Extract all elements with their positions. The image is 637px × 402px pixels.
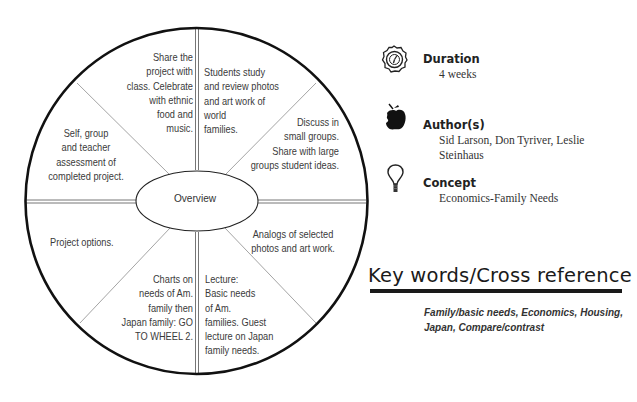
concept-value: Economics-Family Needs: [439, 191, 609, 206]
authors-block: Author(s) Sid Larson, Don Tyriver, Lesli…: [380, 100, 630, 160]
duration-block: Duration 4 weeks: [380, 46, 630, 86]
authors-label: Author(s): [423, 118, 485, 132]
concept-block: Concept Economics-Family Needs: [380, 164, 630, 204]
wheel-segment-project-options: Project options.: [50, 235, 138, 249]
wheel-segment-assessment: Self, group and teacher assessment of co…: [37, 126, 136, 183]
duration-label: Duration: [423, 52, 480, 66]
keywords-underline: [370, 289, 622, 293]
lightbulb-icon: [384, 164, 412, 194]
wheel-segment-discuss: Discuss in small groups. Share with larg…: [227, 115, 339, 172]
concept-label: Concept: [423, 176, 476, 190]
wheel-segment-charts: Charts on needs of Am. family then Japan…: [111, 272, 193, 343]
apple-icon: [382, 102, 410, 132]
keywords-heading: Key words/Cross reference: [368, 264, 632, 287]
wheel-segment-share-project: Share the project with class. Celebrate …: [118, 50, 193, 136]
wheel-segment-lecture: Lecture: Basic needs of Am. families. Gu…: [205, 272, 302, 358]
keywords-list: Family/basic needs, Economics, Housing, …: [424, 306, 634, 335]
wheel-segment-analogs: Analogs of selected photos and art work.: [239, 227, 346, 256]
duration-value: 4 weeks: [439, 67, 609, 82]
overview-label: Overview: [147, 192, 244, 204]
authors-value: Sid Larson, Don Tyriver, Leslie Steinhau…: [439, 133, 609, 163]
clock-icon: [380, 44, 408, 74]
